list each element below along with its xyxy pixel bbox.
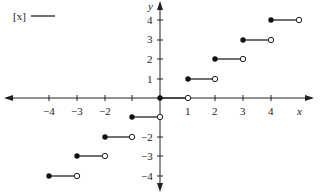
- x-tick-label: −3: [71, 105, 83, 117]
- x-tick-label: −2: [99, 105, 111, 117]
- y-tick-label: −2: [141, 131, 153, 143]
- x-tick-label: −4: [43, 105, 55, 117]
- x-tick-label: 3: [240, 105, 246, 117]
- y-tick-label: −3: [141, 150, 153, 162]
- arrow-right-icon: [305, 95, 314, 101]
- y-axis-label: y: [147, 0, 153, 12]
- y-tick-label: 3: [147, 33, 153, 45]
- x-tick-label: 2: [212, 105, 218, 117]
- x-tick-label: 4: [268, 105, 274, 117]
- floor-function-chart: [x] −4 −3 −2 1 2 3 4 4 3 2: [0, 0, 321, 193]
- arrow-up-icon: [157, 1, 163, 10]
- y-tick-label: 1: [147, 73, 153, 85]
- x-tick-label: 1: [185, 105, 191, 117]
- y-tick-label: 2: [147, 53, 153, 65]
- x-axis-label: x: [296, 105, 302, 117]
- legend-label: [x]: [13, 10, 26, 22]
- arrow-left-icon: [4, 95, 13, 101]
- arrow-down-icon: [157, 183, 163, 192]
- y-tick-label: −4: [141, 170, 153, 182]
- y-tick-label: 4: [147, 14, 153, 26]
